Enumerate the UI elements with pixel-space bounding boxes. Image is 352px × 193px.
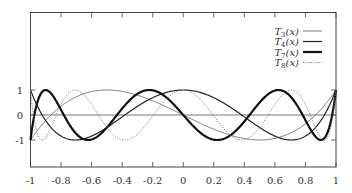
x-tick-label: 0.4: [236, 175, 252, 186]
x-tick-label: 0: [180, 175, 186, 186]
x-tick-label: 0.6: [267, 175, 283, 186]
legend: T3(x)T4(x)T7(x)T8(x): [274, 26, 322, 71]
x-tick-label: -0.8: [51, 175, 70, 186]
y-tick-label: 1: [17, 85, 23, 96]
legend-label: T8(x): [274, 57, 299, 70]
x-tick-label: -0.4: [113, 175, 132, 186]
x-tick-label: -0.2: [143, 175, 162, 186]
x-tick-label: -1: [26, 175, 36, 186]
x-tick-label: 1: [333, 175, 339, 186]
y-tick-label: -1: [15, 135, 25, 146]
chebyshev-chart: -1-0.8-0.6-0.4-0.200.20.40.60.8110-1 T3(…: [0, 0, 352, 193]
x-tick-label: 0.8: [297, 175, 313, 186]
x-tick-label: -0.6: [82, 175, 101, 186]
x-tick-label: 0.2: [206, 175, 222, 186]
y-tick-label: 0: [17, 110, 23, 121]
